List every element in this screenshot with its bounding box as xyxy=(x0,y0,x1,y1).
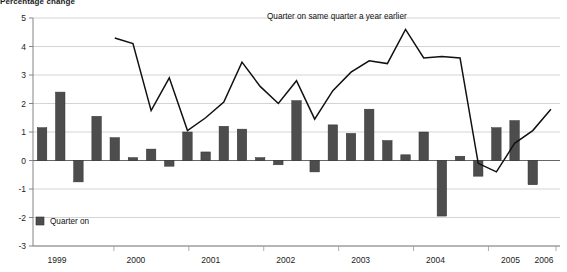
bar xyxy=(110,138,119,161)
bar xyxy=(56,92,65,160)
bar xyxy=(383,141,392,161)
y-axis-tick-label: 0 xyxy=(21,156,26,166)
bar xyxy=(128,158,137,161)
y-axis-tick-label: 5 xyxy=(21,13,26,23)
bar xyxy=(146,149,155,160)
x-axis-tick-label: 2003 xyxy=(351,255,370,265)
x-axis: 19992000200120022003200420052006 xyxy=(33,246,560,265)
annotation-label: Quarter on same quarter a year earlier xyxy=(267,12,407,21)
bar-series xyxy=(37,92,537,216)
line-series-annotation: Quarter on same quarter a year earlier xyxy=(267,12,407,21)
y-axis: 543210-1-2-3 xyxy=(18,13,33,251)
y-axis-tick-label: 2 xyxy=(21,99,26,109)
bar xyxy=(37,128,46,161)
bar xyxy=(346,133,355,160)
y-axis-tick-label: -3 xyxy=(18,241,26,251)
bar xyxy=(183,132,192,161)
x-axis-tick-label: 2001 xyxy=(201,255,220,265)
bar xyxy=(92,116,101,160)
bar xyxy=(274,161,283,165)
x-axis-tick-label: 1999 xyxy=(48,255,67,265)
legend-label: Quarter on xyxy=(50,217,90,226)
bar xyxy=(201,152,210,161)
chart-container: Percentage change 543210-1-2-3 199920002… xyxy=(0,0,567,272)
y-axis-tick-label: -1 xyxy=(18,184,26,194)
bar xyxy=(401,155,410,161)
bar xyxy=(165,161,174,167)
x-axis-tick-label: 2002 xyxy=(276,255,295,265)
chart-legend: Quarter on xyxy=(36,217,90,226)
bar xyxy=(292,101,301,161)
bar xyxy=(310,161,319,172)
bar xyxy=(419,132,428,161)
y-axis-tick-label: -2 xyxy=(18,213,26,223)
x-axis-tick-label: 2000 xyxy=(126,255,145,265)
bar xyxy=(328,125,337,161)
bar xyxy=(437,161,446,217)
x-axis-tick-label: 2005 xyxy=(501,255,520,265)
y-axis-tick-label: 1 xyxy=(21,127,26,137)
y-axis-tick-label: 4 xyxy=(21,42,26,52)
bar xyxy=(74,161,83,182)
bar xyxy=(219,126,228,160)
legend-swatch xyxy=(36,217,44,225)
bar xyxy=(528,161,537,185)
x-axis-tick-label: 2006 xyxy=(535,255,554,265)
bar xyxy=(492,128,501,161)
bar xyxy=(455,156,464,160)
bar xyxy=(255,158,264,161)
bar xyxy=(237,129,246,160)
chart-canvas: 543210-1-2-3 199920002001200220032004200… xyxy=(0,0,567,272)
x-axis-tick-label: 2004 xyxy=(426,255,445,265)
bar xyxy=(364,109,373,160)
y-axis-tick-label: 3 xyxy=(21,70,26,80)
